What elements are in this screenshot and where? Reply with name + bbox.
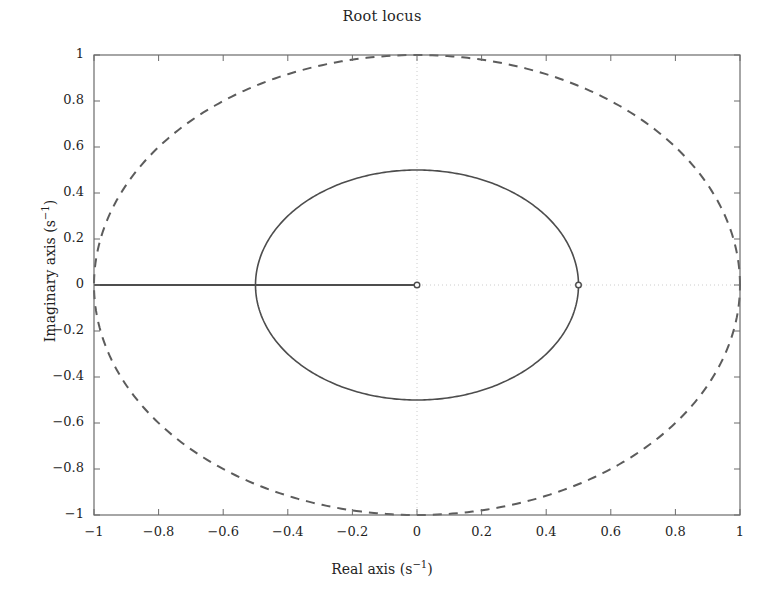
right-branch-marker: [576, 282, 582, 288]
y-tick-label-9: 0.8: [24, 92, 84, 107]
y-tick-label-4: −0.2: [24, 322, 84, 337]
y-tick-label-1: −0.8: [24, 460, 84, 475]
x-tick-label-10: 1: [710, 524, 764, 539]
x-tick-label-4: −0.2: [322, 524, 382, 539]
x-tick-label-0: −1: [64, 524, 124, 539]
y-tick-label-8: 0.6: [24, 138, 84, 153]
plot-canvas: [0, 0, 764, 591]
y-tick-label-7: 0.4: [24, 184, 84, 199]
x-tick-label-3: −0.4: [258, 524, 318, 539]
x-tick-label-9: 0.8: [645, 524, 705, 539]
x-tick-label-7: 0.4: [516, 524, 576, 539]
root-locus-figure: Root locus Imaginary axis (s−1) Real axi…: [0, 0, 764, 591]
x-tick-label-5: 0: [387, 524, 447, 539]
y-tick-label-6: 0.2: [24, 230, 84, 245]
locus-markers: [414, 282, 581, 288]
y-tick-label-10: 1: [24, 46, 84, 61]
x-tick-label-2: −0.6: [193, 524, 253, 539]
y-tick-label-5: 0: [24, 276, 84, 291]
x-tick-label-6: 0.2: [452, 524, 512, 539]
origin-marker: [414, 282, 420, 288]
x-tick-label-8: 0.6: [581, 524, 641, 539]
y-tick-label-3: −0.4: [24, 368, 84, 383]
y-tick-label-0: −1: [24, 506, 84, 521]
y-tick-label-2: −0.6: [24, 414, 84, 429]
x-tick-label-1: −0.8: [129, 524, 189, 539]
